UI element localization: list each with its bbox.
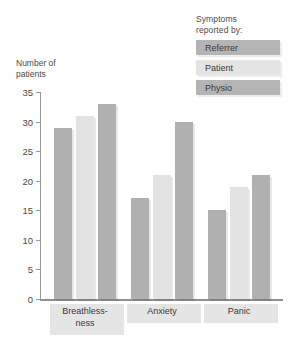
- bar-fill: [153, 175, 171, 299]
- y-tick-label-35: 35: [22, 87, 33, 98]
- legend-label-patient: Patient: [205, 63, 233, 73]
- bar-group-1: [131, 92, 193, 299]
- y-tick-35: [36, 92, 40, 93]
- y-tick-label-30: 30: [22, 116, 33, 127]
- bar-fill: [54, 128, 72, 300]
- y-tick-30: [36, 122, 40, 123]
- plot-area: 05101520253035 Breathless-nessAnxietyPan…: [40, 92, 283, 299]
- legend-title-line-1: Symptoms: [196, 14, 280, 25]
- category-label-1: Anxiety: [125, 302, 199, 321]
- bar-fill: [76, 116, 94, 299]
- legend-label-physio: Physio: [205, 83, 232, 93]
- legend-item-patient: Patient: [196, 60, 280, 75]
- legend-title-line-2: reported by:: [196, 25, 280, 36]
- bar-physio-1: [175, 122, 193, 299]
- y-axis-title-line-1: Number of: [16, 58, 56, 69]
- chart-legend: Symptoms reported by: Referrer Patient P…: [196, 14, 280, 100]
- category-label-line-0: Anxiety: [125, 305, 199, 317]
- bar-fill: [98, 104, 116, 299]
- legend-item-referrer: Referrer: [196, 40, 280, 55]
- y-tick-5: [36, 269, 40, 270]
- bar-physio-0: [98, 104, 116, 299]
- y-tick-label-0: 0: [28, 294, 33, 305]
- bar-referrer-2: [208, 210, 226, 299]
- y-axis-title-line-2: patients: [16, 69, 56, 80]
- y-tick-label-10: 10: [22, 234, 33, 245]
- y-tick-10: [36, 240, 40, 241]
- y-axis-title: Number of patients: [16, 58, 56, 79]
- y-tick-20: [36, 181, 40, 182]
- y-tick-25: [36, 151, 40, 152]
- y-tick-label-5: 5: [28, 264, 33, 275]
- category-label-2: Panic: [202, 302, 276, 321]
- legend-title: Symptoms reported by:: [196, 14, 280, 35]
- bar-group-0: [54, 92, 116, 299]
- y-tick-label-25: 25: [22, 146, 33, 157]
- bar-fill: [252, 175, 270, 299]
- y-axis-line: [40, 92, 41, 299]
- y-tick-15: [36, 210, 40, 211]
- bar-referrer-1: [131, 198, 149, 299]
- bar-fill: [208, 210, 226, 299]
- bar-fill: [230, 187, 248, 299]
- category-label-line-1: ness: [48, 317, 122, 329]
- y-tick-0: [36, 299, 40, 300]
- bar-patient-0: [76, 116, 94, 299]
- category-label-line-0: Panic: [202, 305, 276, 317]
- bar-referrer-0: [54, 128, 72, 300]
- bar-fill: [175, 122, 193, 299]
- y-tick-label-20: 20: [22, 175, 33, 186]
- bar-physio-2: [252, 175, 270, 299]
- bar-group-2: [208, 92, 270, 299]
- bar-fill: [131, 198, 149, 299]
- category-label-line-0: Breathless-: [48, 305, 122, 317]
- legend-label-referrer: Referrer: [205, 43, 238, 53]
- bar-chart: Symptoms reported by: Referrer Patient P…: [0, 0, 288, 344]
- category-label-0: Breathless-ness: [48, 302, 122, 333]
- bar-patient-2: [230, 187, 248, 299]
- y-tick-label-15: 15: [22, 205, 33, 216]
- bar-patient-1: [153, 175, 171, 299]
